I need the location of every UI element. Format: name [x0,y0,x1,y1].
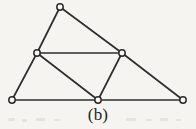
right-midpoint-vertex [119,50,125,56]
edge-right-mid-to-bottom-mid [98,53,122,100]
edge-apex-to-right-mid [60,7,122,53]
bottom-midpoint-vertex [95,97,101,103]
bottom-left-vertex [9,97,15,103]
figure-caption: (b) [0,104,196,125]
edge-apex-to-left-mid [37,7,60,53]
edge-left-mid-to-bottom-mid [37,53,98,100]
edge-right-mid-to-bottom-right [122,53,183,100]
bottom-right-vertex [180,97,186,103]
left-midpoint-vertex [34,50,40,56]
edge-left-mid-to-bottom-left [12,53,37,100]
figure-container: (b) [0,0,196,129]
top-apex-vertex [57,4,63,10]
